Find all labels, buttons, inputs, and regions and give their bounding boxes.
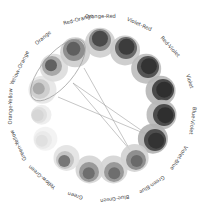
label-green-blue: Green-Blue — [138, 175, 165, 196]
label-yellow-green: Yellow-Green — [27, 164, 57, 191]
label-blue-green: Blue-Green — [100, 194, 130, 204]
label-violet: Violet — [185, 73, 195, 89]
label-blue-violet: Blue-Violet — [188, 107, 198, 135]
color-node-green-yellow — [33, 127, 57, 151]
link-line — [84, 68, 130, 150]
label-yellow-orange: Yellow-Orange — [8, 50, 31, 87]
color-node-green — [76, 155, 104, 183]
label-orange: Orange — [34, 29, 53, 47]
label-red-violet: Red-Violet — [159, 35, 181, 58]
color-node-red-orange — [60, 37, 90, 67]
color-node-blue-green — [100, 155, 128, 183]
label-orange-yellow: Orange-Yellow — [7, 87, 15, 124]
label-green-yellow: Green-Yellow — [8, 128, 27, 161]
label-red-orange: Red-Orange — [62, 12, 94, 27]
label-green: Green — [67, 191, 84, 201]
color-wheel-diagram: Orange-RedViolet-RedRed-VioletVioletBlue… — [0, 0, 205, 215]
connection-lines — [58, 68, 148, 150]
label-violet-blue: Violet-Blue — [169, 145, 189, 172]
color-node-orange-yellow — [31, 105, 52, 125]
label-violet-red: Violet-Red — [126, 16, 153, 32]
color-nodes — [28, 28, 176, 184]
color-node-yellow-green — [53, 145, 79, 171]
link-line — [58, 97, 148, 135]
